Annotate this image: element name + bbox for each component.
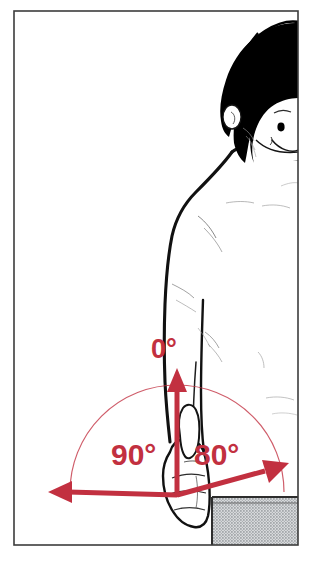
label-neutral-angle: 0° xyxy=(151,334,177,364)
illustration-container: 0° 90° 80° xyxy=(0,0,313,566)
anatomical-illustration: 0° 90° 80° xyxy=(0,0,313,566)
shorts-fill xyxy=(212,497,299,545)
eye xyxy=(277,123,284,132)
shorts xyxy=(212,497,299,545)
left-arrow-shaft xyxy=(68,492,177,495)
ear xyxy=(223,105,241,129)
label-right-rotation-angle: 80° xyxy=(194,438,239,471)
label-left-rotation-angle: 90° xyxy=(111,438,156,471)
